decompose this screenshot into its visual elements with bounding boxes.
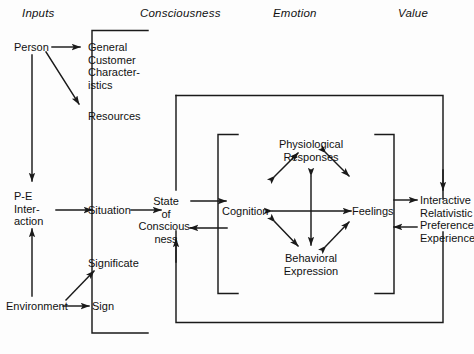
node-soc-line-1: State [135,195,197,208]
node-pe-line-1: P-E [14,190,43,203]
edge-person-to-resources [46,52,79,104]
node-soc-line-4: ness [135,233,197,246]
node-cognition: Cognition [222,205,268,218]
node-gcc-line-4: istics [88,79,140,92]
node-situation-label: Situation [88,204,131,217]
node-soc-line-3: Conscious- [135,220,197,233]
diagram-canvas: Inputs Consciousness Emotion Value Perso… [0,0,474,354]
frame-outer-value-loop [176,96,443,323]
node-situation: Situation [88,204,131,217]
node-pe-line-3: action [14,215,43,228]
node-feelings: Feelings [352,205,394,218]
node-state-of-consciousness: State of Conscious- ness [135,195,197,245]
node-gcc-line-1: General [88,41,140,54]
node-sign: Sign [92,300,114,313]
node-gcc-line-3: Character- [88,66,140,79]
node-value-line-2: Relativistic [420,207,474,220]
edge-sign-to-significate [66,271,94,300]
node-behavioral-line-2: Expression [272,265,350,278]
node-person: Person [14,41,49,54]
node-pe-interaction: P-E Inter- action [14,190,43,228]
edge-behavioral-feelings [326,222,349,246]
node-physiological-line-2: Responses [272,151,350,164]
node-gcc-line-2: Customer [88,54,140,67]
node-significate-label: Significate [88,257,139,270]
node-pe-line-2: Inter- [14,203,43,216]
node-cognition-label: Cognition [222,205,268,218]
edge-cognition-behavioral [275,222,298,246]
diagram-lines-layer [0,0,474,354]
node-value-line-1: Interactive [420,194,474,207]
node-value-line-4: Experience [420,232,474,245]
node-resources: Resources [88,110,141,123]
column-heading-value: Value [398,7,428,19]
node-resources-label: Resources [88,110,141,123]
node-physiological-line-1: Physiological [272,138,350,151]
node-interactive-relativistic-preference-experience: Interactive Relativistic Preference Expe… [420,194,474,244]
column-heading-consciousness: Consciousness [140,7,221,19]
node-feelings-label: Feelings [352,205,394,218]
column-heading-emotion: Emotion [273,7,317,19]
node-physiological-responses: Physiological Responses [272,138,350,163]
node-value-line-3: Preference [420,219,474,232]
node-significate: Significate [88,257,139,270]
node-sign-label: Sign [92,300,114,313]
node-behavioral-line-1: Behavioral [272,252,350,265]
node-behavioral-expression: Behavioral Expression [272,252,350,277]
column-heading-inputs: Inputs [22,7,55,19]
node-general-customer-characteristics: General Customer Character- istics [88,41,140,91]
node-environment: Environment [6,300,68,313]
node-soc-line-2: of [135,208,197,221]
node-environment-label: Environment [6,300,68,313]
node-person-label: Person [14,41,49,54]
